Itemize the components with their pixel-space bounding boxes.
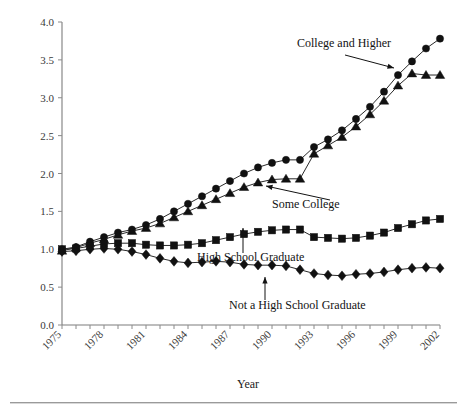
data-point-square	[156, 242, 163, 249]
x-axis-title: Year	[237, 377, 259, 391]
data-point-diamond	[184, 258, 192, 268]
data-point-circle	[282, 156, 289, 163]
data-point-diamond	[170, 257, 178, 267]
data-point-square	[380, 229, 387, 236]
x-tick-label: 1978	[81, 328, 105, 352]
data-point-triangle	[211, 195, 220, 203]
chart-figure: 0.00.51.01.52.02.53.03.54.0 197519781981…	[0, 0, 467, 411]
data-point-circle	[184, 200, 191, 207]
data-point-diamond	[296, 265, 304, 275]
data-point-diamond	[380, 267, 388, 277]
data-point-diamond	[142, 250, 150, 260]
x-tick-label: 1984	[165, 328, 189, 352]
x-tick-label: 1981	[123, 328, 147, 352]
annotation-label: College and Higher	[297, 36, 391, 50]
data-point-diamond	[436, 263, 444, 273]
data-point-square	[254, 228, 261, 235]
footer-divider	[10, 402, 457, 404]
data-point-diamond	[310, 269, 318, 279]
series-some-college	[57, 69, 444, 254]
data-point-diamond	[338, 271, 346, 281]
y-tick-label: 4.0	[40, 16, 54, 28]
data-point-circle	[226, 177, 233, 184]
data-point-square	[128, 240, 135, 247]
data-point-diamond	[128, 247, 136, 257]
data-point-square	[184, 241, 191, 248]
data-point-square	[226, 234, 233, 241]
x-tick-label: 1975	[39, 328, 63, 352]
data-point-square	[436, 215, 443, 222]
data-point-triangle	[337, 133, 346, 141]
data-point-square	[366, 232, 373, 239]
data-point-triangle	[407, 69, 416, 77]
data-point-circle	[296, 156, 303, 163]
annotation-not-a-high-school-graduate: Not a High School Graduate	[229, 277, 366, 312]
y-tick-label: 2.0	[40, 168, 54, 180]
y-tick-label: 2.5	[40, 130, 54, 142]
data-point-circle	[212, 185, 219, 192]
x-tick-label: 2002	[417, 328, 441, 352]
annotation-layer: College and HigherSome CollegeHigh Schoo…	[197, 36, 394, 312]
x-axis: 1975197819811984198719901993199619992002	[39, 325, 441, 352]
annotation-arrowhead	[262, 277, 267, 284]
data-point-triangle	[197, 201, 206, 209]
data-point-circle	[422, 45, 429, 52]
data-point-square	[170, 242, 177, 249]
y-axis: 0.00.51.01.52.02.53.03.54.0	[40, 16, 62, 331]
annotation-arrowhead	[266, 185, 273, 190]
y-tick-label: 0.5	[40, 281, 54, 293]
annotation-label: Some College	[272, 197, 340, 211]
data-point-diamond	[408, 263, 416, 273]
data-point-diamond	[324, 270, 332, 280]
data-point-square	[296, 226, 303, 233]
data-point-triangle	[281, 174, 290, 182]
data-point-circle	[408, 58, 415, 65]
data-point-square	[338, 235, 345, 242]
data-point-triangle	[183, 207, 192, 215]
annotation-label: High School Graduate	[197, 250, 304, 264]
x-tick-label: 1993	[291, 328, 315, 352]
data-point-diamond	[156, 253, 164, 263]
data-point-square	[268, 227, 275, 234]
data-point-triangle	[435, 71, 444, 79]
annotation-some-college: Some College	[266, 185, 340, 211]
data-point-diamond	[422, 263, 430, 273]
x-tick-label: 1999	[375, 328, 399, 352]
data-point-square	[352, 234, 359, 241]
data-point-diamond	[352, 269, 360, 279]
data-point-square	[324, 234, 331, 241]
y-tick-label: 1.5	[40, 205, 54, 217]
annotation-label: Not a High School Graduate	[229, 298, 366, 312]
data-point-circle	[366, 103, 373, 110]
y-tick-label: 3.0	[40, 92, 54, 104]
x-tick-label: 1987	[207, 328, 231, 352]
data-point-diamond	[366, 269, 374, 279]
x-tick-label: 1990	[249, 328, 273, 352]
data-point-circle	[254, 164, 261, 171]
data-point-circle	[268, 159, 275, 166]
data-point-circle	[394, 71, 401, 78]
line-chart-canvas: 0.00.51.01.52.02.53.03.54.0 197519781981…	[0, 0, 467, 411]
data-point-diamond	[394, 265, 402, 275]
data-point-circle	[240, 170, 247, 177]
data-point-square	[198, 240, 205, 247]
data-point-triangle	[295, 174, 304, 182]
data-point-square	[282, 226, 289, 233]
data-point-circle	[352, 115, 359, 122]
data-point-square	[422, 217, 429, 224]
data-point-circle	[198, 193, 205, 200]
data-point-square	[310, 234, 317, 241]
y-tick-label: 3.5	[40, 54, 54, 66]
data-point-square	[408, 221, 415, 228]
series-layer	[57, 35, 444, 281]
x-tick-label: 1996	[333, 328, 357, 352]
data-point-circle	[436, 35, 443, 42]
annotation-arrowhead	[387, 64, 394, 69]
data-point-square	[212, 237, 219, 244]
y-tick-label: 1.0	[40, 243, 54, 255]
data-point-triangle	[323, 141, 332, 149]
data-point-circle	[380, 88, 387, 95]
data-point-square	[394, 224, 401, 231]
data-point-square	[142, 241, 149, 248]
annotation-college-and-higher: College and Higher	[297, 36, 394, 69]
